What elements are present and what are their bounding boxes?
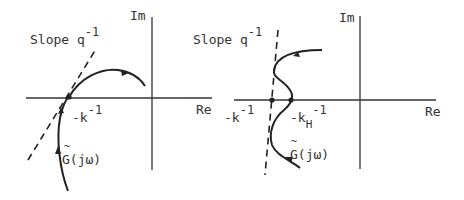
left-slope-line [28, 49, 96, 160]
left-slope-text: Slope q [30, 32, 85, 47]
left-k-exp: -1 [88, 103, 102, 117]
right-k-exp: -1 [240, 103, 254, 117]
right-kh-point [288, 97, 293, 102]
right-k-point [269, 97, 274, 102]
left-arrow-bottom [55, 146, 61, 154]
right-k-text: -k [224, 110, 240, 125]
right-g-label: G(jω) [290, 147, 329, 162]
right-kh-exp: -1 [312, 103, 326, 117]
right-slope-text: Slope q [193, 32, 248, 47]
right-g-text: G(jω) [290, 147, 329, 162]
right-k-label: -k-1 [224, 110, 254, 125]
left-slope-label: Slope q-1 [30, 32, 99, 47]
right-kh-sub: H [306, 118, 313, 131]
left-g-label: G(jω) [62, 152, 101, 167]
right-g-tilde: ~ [291, 136, 297, 147]
right-re-label: Re [425, 104, 441, 119]
left-k-text: -k [72, 110, 88, 125]
left-k-label: -k-1 [72, 110, 102, 125]
right-slope-exp: -1 [248, 25, 262, 39]
right-kh-label: -kH-1 [290, 110, 327, 125]
right-im-label: Im [339, 10, 355, 25]
diagram-canvas [0, 0, 464, 200]
left-intersection-point [66, 94, 71, 99]
left-slope-exp: -1 [85, 25, 99, 39]
left-re-label: Re [196, 102, 212, 117]
right-slope-label: Slope q-1 [193, 32, 262, 47]
right-kh-text: -k [290, 110, 306, 125]
left-im-label: Im [130, 8, 146, 23]
left-g-tilde: ~ [64, 141, 70, 152]
left-g-text: G(jω) [62, 152, 101, 167]
